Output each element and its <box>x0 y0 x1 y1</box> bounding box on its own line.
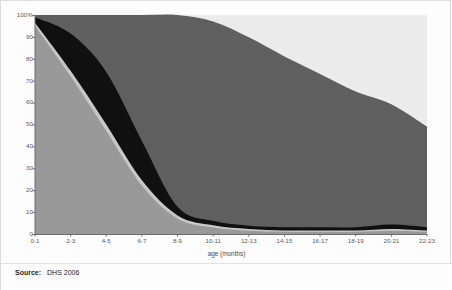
area-series-group <box>35 15 427 234</box>
source-value: DHS 2006 <box>47 269 79 276</box>
source-label: Source: <box>15 269 41 276</box>
x-tick-label: 16-17 <box>312 237 328 244</box>
y-tick-label: 100% <box>7 12 33 18</box>
y-tick-label: 20 <box>7 187 33 193</box>
y-tick-label: 80 <box>7 56 33 62</box>
x-tick-label: 20-21 <box>383 237 399 244</box>
y-tick-label: 40 <box>7 143 33 149</box>
x-tick-label: 8-9 <box>173 237 182 244</box>
y-tick-label: 50 <box>7 121 33 127</box>
x-tick-label: 0-1 <box>31 237 40 244</box>
x-tick-label: 10-11 <box>205 237 220 244</box>
x-axis-title: age (months) <box>1 250 452 257</box>
figure-footer: Source:DHS 2006 <box>1 263 452 290</box>
x-tick-label: 4-5 <box>102 237 111 244</box>
stacked-area-chart <box>1 1 452 259</box>
y-tick-label: 10 <box>7 209 33 215</box>
x-tick-label: 12-13 <box>241 237 257 244</box>
plot-area: 100%9080706050403020100 0-12-34-56-78-91… <box>1 1 452 259</box>
x-tick-label: 14-15 <box>277 237 293 244</box>
x-tick-label: 18-19 <box>348 237 364 244</box>
y-tick-label: 90 <box>7 34 33 40</box>
x-tick-label: 2-3 <box>66 237 75 244</box>
x-axis-tick-labels: 0-12-34-56-78-910-1112-1314-1516-1718-19… <box>1 237 452 251</box>
x-tick-label: 6-7 <box>137 237 146 244</box>
y-axis-tick-labels: 100%9080706050403020100 <box>1 1 33 259</box>
y-tick-label: 30 <box>7 165 33 171</box>
source-note: Source:DHS 2006 <box>15 269 79 276</box>
y-tick-label: 60 <box>7 99 33 105</box>
y-tick-label: 70 <box>7 78 33 84</box>
x-tick-label: 22-23 <box>419 237 435 244</box>
